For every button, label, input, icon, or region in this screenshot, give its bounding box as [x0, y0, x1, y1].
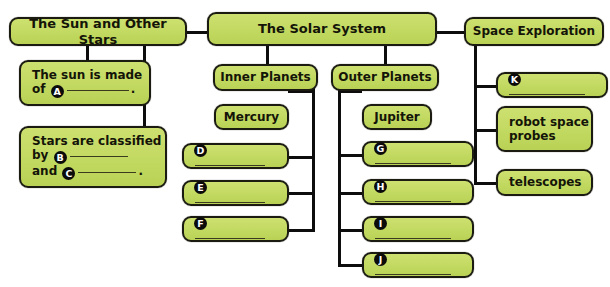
blank-c[interactable]	[78, 172, 136, 173]
node-outer-blank-j[interactable]: J	[362, 252, 474, 278]
node-inner-blank-f[interactable]: F	[182, 216, 289, 242]
node-jupiter[interactable]: Jupiter	[362, 104, 432, 130]
node-sun-composition[interactable]: The sun is made of A.	[19, 60, 151, 106]
marker-a: A	[51, 85, 64, 98]
blank-g[interactable]	[375, 163, 451, 164]
node-robot-space-probes[interactable]: robot space probes	[496, 106, 593, 152]
concept-map-diagram: The Sun and Other Stars The sun is made …	[0, 0, 610, 287]
node-inner-planets[interactable]: Inner Planets	[213, 64, 318, 91]
connector-inner-to-blank-f	[288, 229, 315, 232]
connector-space-to-robot-probes	[474, 129, 496, 132]
space-exploration-spine	[474, 44, 477, 184]
marker-h: H	[374, 180, 387, 193]
node-inner-blank-e[interactable]: E	[182, 180, 289, 206]
blank-e[interactable]	[195, 202, 265, 203]
blank-f[interactable]	[195, 238, 265, 239]
sun-composition-line2-pre: of	[32, 82, 45, 96]
node-outer-blank-h[interactable]: H	[362, 179, 474, 205]
sun-composition-line2-post: .	[131, 82, 136, 96]
node-space-exploration[interactable]: Space Exploration	[464, 17, 604, 46]
blank-a[interactable]	[67, 90, 129, 91]
node-telescopes-label: telescopes	[509, 175, 583, 189]
node-outer-blank-i[interactable]: I	[362, 216, 474, 242]
inner-planets-spine	[312, 78, 315, 231]
node-outer-planets-label: Outer Planets	[333, 70, 437, 84]
robot-space-probes-line2: probes	[509, 129, 556, 143]
node-telescopes[interactable]: telescopes	[496, 169, 593, 196]
connector-solar-system-to-space-exploration	[437, 31, 464, 34]
marker-f: F	[194, 217, 207, 230]
connector-inner-to-blank-d	[288, 156, 315, 159]
node-sun-and-other-stars-label: The Sun and Other Stars	[11, 16, 185, 47]
marker-b: B	[54, 151, 67, 164]
blank-h[interactable]	[375, 201, 451, 202]
marker-j: J	[374, 253, 387, 266]
blank-b[interactable]	[70, 156, 128, 157]
connector-solar-system-to-inner-planets	[266, 46, 269, 64]
node-solar-system-label: The Solar System	[209, 21, 435, 36]
marker-e: E	[194, 181, 207, 194]
node-mercury[interactable]: Mercury	[214, 104, 289, 130]
sun-composition-line1: The sun is made	[32, 68, 142, 82]
outer-planets-spine	[338, 82, 341, 265]
node-inner-blank-d[interactable]: D	[182, 143, 289, 169]
node-stars-classified[interactable]: Stars are classified by B and C.	[19, 126, 167, 188]
stars-classified-line3-post: .	[138, 164, 143, 178]
robot-space-probes-line1: robot space	[509, 115, 589, 129]
node-jupiter-label: Jupiter	[364, 110, 430, 124]
node-solar-system[interactable]: The Solar System	[207, 12, 437, 46]
node-mercury-label: Mercury	[216, 110, 287, 124]
node-outer-blank-g[interactable]: G	[362, 141, 474, 167]
stars-classified-line2-pre: by	[32, 148, 48, 162]
connector-outer-to-blank-j	[338, 264, 362, 267]
node-inner-planets-label: Inner Planets	[215, 70, 316, 84]
marker-k: K	[508, 73, 521, 86]
stars-classified-line3-pre: and	[32, 164, 57, 178]
node-space-blank-k[interactable]: K	[496, 72, 608, 98]
marker-c: C	[62, 167, 75, 180]
connector-inner-to-blank-e	[288, 192, 315, 195]
blank-d[interactable]	[195, 165, 265, 166]
node-outer-planets[interactable]: Outer Planets	[331, 64, 439, 91]
marker-i: I	[374, 217, 387, 230]
blank-j[interactable]	[375, 274, 451, 275]
connector-outer-to-blank-h	[338, 192, 362, 195]
connector-space-to-blank-k	[474, 85, 496, 88]
marker-d: D	[194, 144, 207, 157]
connector-solar-system-to-outer-planets	[384, 46, 387, 64]
connector-space-to-telescopes	[474, 182, 496, 185]
node-sun-and-other-stars[interactable]: The Sun and Other Stars	[9, 17, 187, 46]
connector-outer-to-blank-g	[338, 154, 362, 157]
stars-classified-line1: Stars are classified	[32, 134, 161, 148]
connector-outer-to-blank-i	[338, 229, 362, 232]
node-space-exploration-label: Space Exploration	[466, 24, 602, 38]
marker-g: G	[374, 142, 387, 155]
blank-i[interactable]	[375, 238, 451, 239]
connector-sun-to-solar-system	[185, 31, 207, 34]
blank-k[interactable]	[509, 94, 585, 95]
